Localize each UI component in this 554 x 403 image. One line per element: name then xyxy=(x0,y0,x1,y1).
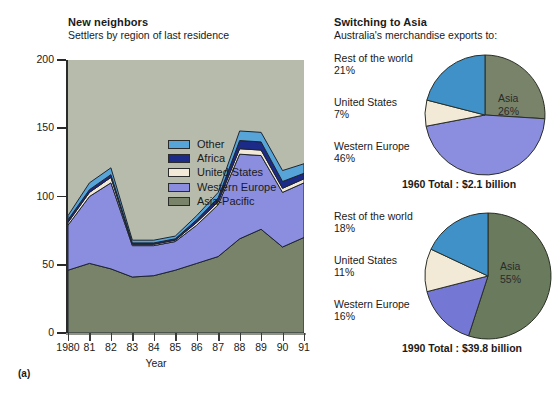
chart-a-legend: Other Africa United States Western Europ… xyxy=(168,137,276,209)
x-axis-tick-label: 87 xyxy=(212,341,224,353)
pie-1-graphic: Asia 26% xyxy=(424,54,546,180)
y-axis-tick-label: 150 xyxy=(14,121,54,133)
x-axis-tick-label: 88 xyxy=(234,341,246,353)
legend-swatch-other xyxy=(168,140,190,149)
legend-label: Africa xyxy=(197,153,225,164)
x-axis-line xyxy=(66,333,306,335)
legend-label: Western Europe xyxy=(197,182,276,193)
x-axis-tick-label: 84 xyxy=(148,341,160,353)
legend-label: United States xyxy=(197,167,263,178)
x-axis-tick xyxy=(89,333,90,341)
y-axis-tick xyxy=(57,127,66,129)
chart-b-title: Switching to Asia xyxy=(334,16,427,28)
legend-item: United States xyxy=(168,166,276,180)
x-axis-tick xyxy=(304,333,305,341)
y-axis-tick xyxy=(57,196,66,198)
x-axis-tick xyxy=(218,333,219,341)
pie-2-total-label: 1990 Total : $39.8 billion xyxy=(402,342,522,354)
chart-b-subtitle: Australia's merchandise exports to: xyxy=(334,29,497,41)
legend-item: Africa xyxy=(168,151,276,165)
legend-label: Asia-Pacific xyxy=(197,196,254,207)
x-axis-tick-label: 85 xyxy=(169,341,181,353)
panel-letter-a: (a) xyxy=(18,368,30,379)
x-axis-tick-label: 83 xyxy=(127,341,139,353)
x-axis-tick-label: 82 xyxy=(105,341,117,353)
x-axis-tick xyxy=(132,333,133,341)
x-axis-tick xyxy=(111,333,112,341)
pie-1-inner-label: Asia 26% xyxy=(498,92,519,117)
legend-item: Western Europe xyxy=(168,180,276,194)
x-axis-tick-label: 86 xyxy=(191,341,203,353)
x-axis-tick-label: 81 xyxy=(84,341,96,353)
x-axis-tick xyxy=(240,333,241,341)
chart-a-title: New neighbors xyxy=(68,16,148,28)
x-axis-tick xyxy=(68,333,69,341)
y-axis-line xyxy=(66,60,68,333)
legend-label: Other xyxy=(197,139,225,150)
legend-swatch-western-europe xyxy=(168,183,190,192)
pie-2-inner-label: Asia 55% xyxy=(500,260,521,285)
panel-b-pie-charts: Switching to Asia Australia's merchandis… xyxy=(312,0,554,403)
chart-a-subtitle: Settlers by region of last residence xyxy=(68,29,229,41)
y-axis-tick xyxy=(57,264,66,266)
panel-a-area-chart: New neighbors Settlers by region of last… xyxy=(0,0,312,403)
y-axis-tick-label: 50 xyxy=(14,258,54,270)
x-axis-tick xyxy=(283,333,284,341)
y-axis-tick-label: 100 xyxy=(14,190,54,202)
pie-2-graphic: Asia 55% xyxy=(424,212,552,344)
legend-swatch-united-states xyxy=(168,168,190,177)
legend-item: Other xyxy=(168,137,276,151)
x-axis-title: Year xyxy=(0,357,312,369)
legend-item: Asia-Pacific xyxy=(168,195,276,209)
x-axis-tick xyxy=(154,333,155,341)
area-plot-region: Other Africa United States Western Europ… xyxy=(68,60,304,333)
x-axis-tick-label: 91 xyxy=(298,341,310,353)
x-axis-tick xyxy=(197,333,198,341)
x-axis-tick-label: 89 xyxy=(255,341,267,353)
pie-slice-western-europe xyxy=(426,115,545,175)
x-axis-tick xyxy=(261,333,262,341)
pie-1-total-label: 1960 Total : $2.1 billion xyxy=(402,178,516,190)
y-axis-tick xyxy=(57,59,66,61)
legend-swatch-asia-pacific xyxy=(168,197,190,206)
y-axis-tick xyxy=(57,332,66,334)
x-axis-tick-label: 90 xyxy=(277,341,289,353)
x-axis-tick-label: 1980 xyxy=(56,341,79,353)
y-axis-tick-label: 0 xyxy=(14,326,54,338)
y-axis-tick-label: 200 xyxy=(14,53,54,65)
x-axis-tick xyxy=(175,333,176,341)
legend-swatch-africa xyxy=(168,154,190,163)
